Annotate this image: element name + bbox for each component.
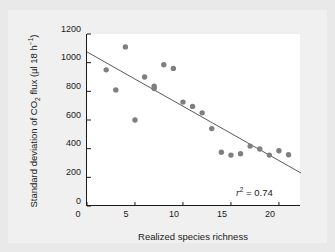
data-point (142, 74, 147, 79)
y-axis-title: Standard deviation of CO2 flux (µl 18 h−… (27, 31, 41, 211)
plot-canvas (87, 34, 301, 206)
data-point (113, 87, 118, 92)
y-axis-tick-label: 0 (76, 197, 81, 206)
y-axis-tick-label: 800 (66, 82, 81, 91)
figure-panel: 020040060080010001200 05101520 Realized … (8, 10, 327, 243)
data-point (180, 99, 185, 104)
data-point (199, 110, 204, 115)
x-axis-tick-label: 5 (116, 210, 136, 219)
x-axis-tick-label: 20 (260, 210, 280, 219)
data-point (161, 62, 166, 67)
x-axis-tick-label: 0 (68, 210, 88, 219)
data-point (123, 44, 128, 49)
x-axis-title: Realized species richness (86, 231, 300, 242)
y-axis-title-superscript: −1 (27, 38, 34, 46)
y-axis-tick-label: 400 (66, 139, 81, 148)
data-point (228, 152, 233, 157)
y-axis-title-suffix: ) (28, 34, 39, 37)
data-point (257, 146, 262, 151)
data-point (132, 117, 137, 122)
figure-container: 020040060080010001200 05101520 Realized … (0, 0, 335, 252)
data-point (286, 152, 291, 157)
data-point (276, 148, 281, 153)
data-point (171, 66, 176, 71)
data-point (209, 126, 214, 131)
y-axis-title-middle: flux (µl 18 h (28, 45, 39, 97)
x-axis-tick-labels: 05101520 (8, 210, 335, 224)
x-axis-tick-label: 10 (164, 210, 184, 219)
data-point (103, 67, 108, 72)
data-point (267, 152, 272, 157)
data-point (238, 151, 243, 156)
data-point (190, 104, 195, 109)
y-axis-tick-label: 1000 (61, 53, 81, 62)
plot-area (86, 34, 300, 206)
r-squared-annotation: r2 = 0.74 (236, 186, 273, 198)
data-point (247, 143, 252, 148)
y-axis-title-subscript: 2 (34, 97, 41, 101)
y-axis-tick-label: 600 (66, 111, 81, 120)
y-axis-tick-label: 1200 (61, 25, 81, 34)
data-point (151, 86, 156, 91)
y-axis-title-prefix: Standard deviation of CO (28, 101, 39, 208)
data-point (219, 150, 224, 155)
y-axis-tick-label: 200 (66, 168, 81, 177)
r-squared-value: = 0.74 (243, 187, 272, 198)
x-axis-tick-label: 15 (212, 210, 232, 219)
